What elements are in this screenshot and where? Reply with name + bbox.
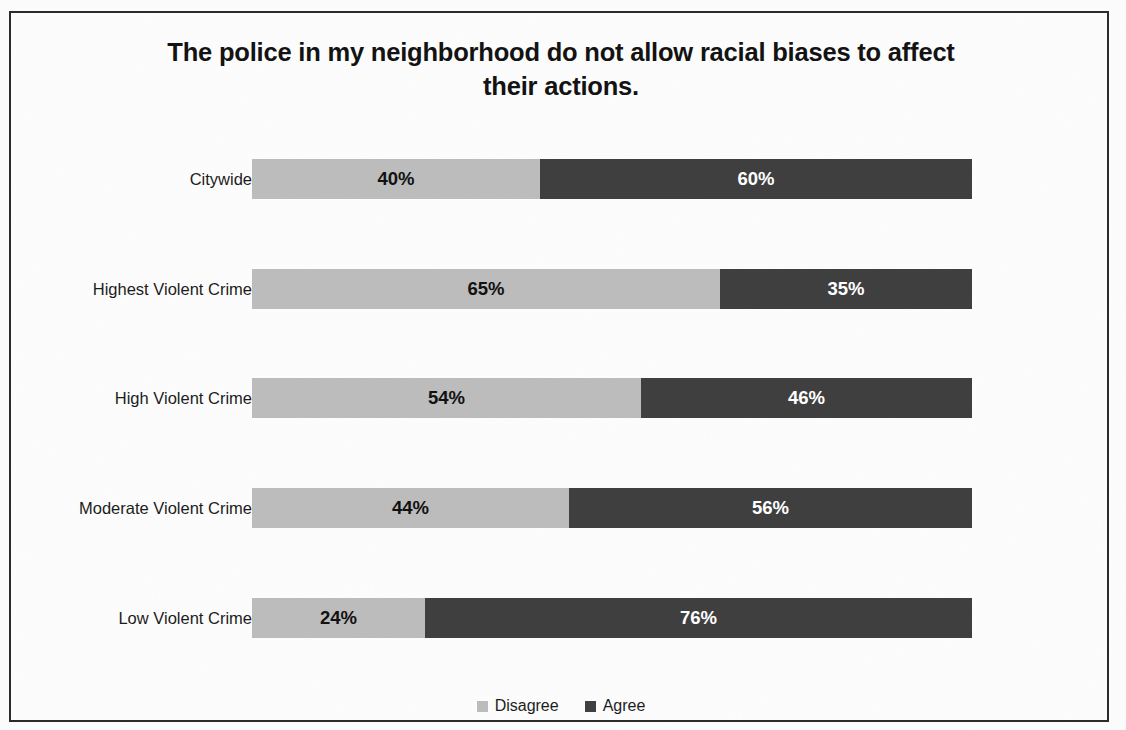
stacked-bar[interactable]: 24% 76% — [252, 598, 972, 638]
bar-segment-agree[interactable]: 46% — [641, 378, 972, 418]
bar-segment-agree[interactable]: 35% — [720, 269, 972, 309]
stacked-bar[interactable]: 44% 56% — [252, 488, 972, 528]
legend-label: Agree — [603, 697, 646, 715]
table-row: Highest Violent Crime 65% 35% — [11, 269, 1111, 309]
table-row: High Violent Crime 54% 46% — [11, 378, 1111, 418]
stacked-bar[interactable]: 40% 60% — [252, 159, 972, 199]
stacked-bar[interactable]: 54% 46% — [252, 378, 972, 418]
category-label: Highest Violent Crime — [93, 280, 252, 299]
legend-label: Disagree — [495, 697, 559, 715]
scanned-page: The police in my neighborhood do not all… — [0, 0, 1126, 730]
bar-segment-disagree[interactable]: 24% — [252, 598, 425, 638]
bar-segment-disagree[interactable]: 44% — [252, 488, 569, 528]
table-row: Low Violent Crime 24% 76% — [11, 598, 1111, 638]
legend-item-disagree[interactable]: Disagree — [477, 697, 559, 715]
category-label: Citywide — [190, 170, 252, 189]
chart-frame: The police in my neighborhood do not all… — [9, 11, 1109, 722]
chart-title-line-1: The police in my neighborhood do not all… — [91, 35, 1031, 69]
table-row: Moderate Violent Crime 44% 56% — [11, 488, 1111, 528]
table-row: Citywide 40% 60% — [11, 159, 1111, 199]
bar-segment-agree[interactable]: 56% — [569, 488, 972, 528]
bar-segment-disagree[interactable]: 65% — [252, 269, 720, 309]
category-label: High Violent Crime — [115, 389, 252, 408]
plot-area: Citywide 40% 60% Highest Violent Crime 6… — [11, 143, 1111, 663]
stacked-bar[interactable]: 65% 35% — [252, 269, 972, 309]
chart-title-line-2: their actions. — [91, 69, 1031, 103]
chart-legend: Disagree Agree — [11, 697, 1111, 715]
bar-segment-agree[interactable]: 60% — [540, 159, 972, 199]
bar-segment-disagree[interactable]: 40% — [252, 159, 540, 199]
chart-title: The police in my neighborhood do not all… — [91, 35, 1031, 103]
category-label: Low Violent Crime — [118, 609, 252, 628]
category-label: Moderate Violent Crime — [79, 499, 252, 518]
legend-swatch-icon — [477, 701, 488, 712]
bar-segment-agree[interactable]: 76% — [425, 598, 972, 638]
bar-segment-disagree[interactable]: 54% — [252, 378, 641, 418]
legend-item-agree[interactable]: Agree — [585, 697, 646, 715]
legend-swatch-icon — [585, 701, 596, 712]
